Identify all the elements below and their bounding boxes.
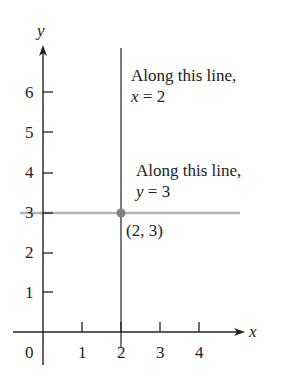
y-axis-label: y (37, 22, 45, 39)
y-tick-label-1: 1 (25, 284, 34, 301)
x-axis-label: x (249, 323, 257, 340)
y-tick-label-3: 3 (25, 204, 34, 221)
point-label: (2, 3) (126, 222, 163, 239)
y-tick-label-6: 6 (25, 84, 34, 101)
y-tick-label-2: 2 (25, 244, 34, 261)
equation-variable: x (131, 87, 139, 106)
origin-label: 0 (25, 344, 34, 361)
annotation-vertical-line-equation: x = 2 (131, 88, 165, 105)
equation-value: = 2 (139, 87, 166, 106)
x-tick-label-3: 3 (156, 344, 165, 361)
y-ticks (43, 92, 53, 292)
x-tick-label-1: 1 (78, 344, 87, 361)
annotation-horizontal-line-text: Along this line, (136, 162, 241, 179)
equation-variable: y (136, 182, 144, 201)
y-tick-label-4: 4 (25, 164, 34, 181)
annotation-vertical-line-text: Along this line, (131, 67, 236, 84)
annotation-horizontal-line-equation: y = 3 (136, 183, 170, 200)
x-tick-label-2: 2 (117, 344, 126, 361)
x-ticks (82, 322, 199, 332)
y-tick-label-5: 5 (25, 124, 34, 141)
x-tick-label-4: 4 (195, 344, 204, 361)
point-2-3 (117, 209, 126, 218)
equation-value: = 3 (144, 182, 171, 201)
